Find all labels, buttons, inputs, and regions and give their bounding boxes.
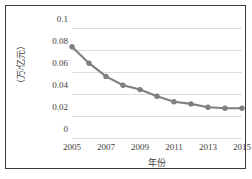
x-axis-title: 年份 <box>72 156 242 169</box>
chart-figure: （万/亿元） 0 0.02 0.04 0.06 0.08 0.1 2005 20… <box>0 0 252 179</box>
series-markers <box>69 44 244 111</box>
y-tick-label-5: 0.1 <box>30 14 68 24</box>
x-tick-label-2005: 2005 <box>55 142 89 153</box>
data-point-2012 <box>188 101 193 106</box>
x-tick-label-2011: 2011 <box>157 142 191 153</box>
data-point-2013 <box>205 105 210 110</box>
x-tick-label-2013: 2013 <box>191 142 225 153</box>
series-line-path <box>72 47 242 109</box>
chart-frame: （万/亿元） 0 0.02 0.04 0.06 0.08 0.1 2005 20… <box>5 5 246 169</box>
data-point-2011 <box>171 99 176 104</box>
y-tick-label-0: 0 <box>30 124 68 134</box>
y-axis-title: （万/亿元） <box>14 29 27 101</box>
data-point-2009 <box>137 87 142 92</box>
gridline-0 <box>72 138 242 139</box>
y-tick-label-1: 0.02 <box>30 102 68 112</box>
data-point-2008 <box>120 83 125 88</box>
y-axis-tick-labels: 0 0.02 0.04 0.06 0.08 0.1 <box>30 20 68 146</box>
data-point-2010 <box>154 94 159 99</box>
y-tick-label-2: 0.04 <box>30 80 68 90</box>
data-point-2014 <box>222 106 227 111</box>
x-tick-label-2007: 2007 <box>89 142 123 153</box>
y-tick-label-4: 0.08 <box>30 36 68 46</box>
line-series <box>72 28 242 138</box>
x-tick-label-2009: 2009 <box>123 142 157 153</box>
data-point-2015 <box>239 106 244 111</box>
y-tick-label-3: 0.06 <box>30 58 68 68</box>
data-point-2005 <box>69 44 74 49</box>
x-tick-label-2015: 2015 <box>225 142 252 153</box>
x-axis-tick-labels: 2005 2007 2009 2011 2013 2015 <box>72 142 242 156</box>
plot-area <box>72 28 242 138</box>
data-point-2006 <box>86 61 91 66</box>
data-point-2007 <box>103 74 108 79</box>
